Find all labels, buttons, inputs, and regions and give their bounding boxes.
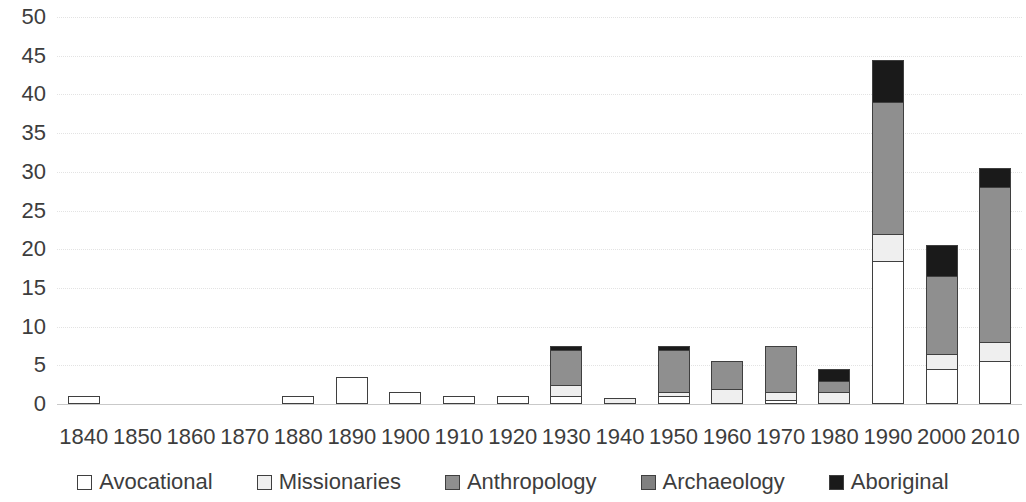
bar-segment-avocational[interactable] — [389, 392, 421, 404]
anthropology-swatch — [445, 475, 460, 490]
legend-label: Missionaries — [279, 471, 401, 493]
legend-label: Avocational — [99, 471, 212, 493]
legend-item[interactable]: Archaeology — [641, 471, 785, 493]
x-axis-tick-label: 1930 — [542, 418, 591, 456]
bar-segment-anthropology[interactable] — [818, 381, 850, 393]
stacked-bar[interactable] — [550, 346, 582, 404]
x-axis-tick-label: 1870 — [220, 418, 269, 456]
stacked-bar[interactable] — [497, 396, 529, 404]
bar-segment-avocational[interactable] — [497, 396, 529, 404]
y-axis-tick-label: 25 — [0, 198, 46, 224]
bar-group — [111, 0, 165, 418]
bar-segment-avocational[interactable] — [68, 396, 100, 404]
stacked-bar[interactable] — [872, 60, 904, 404]
avocational-swatch — [77, 475, 92, 490]
stacked-bar[interactable] — [818, 369, 850, 404]
bar-group — [915, 0, 969, 418]
stacked-bar[interactable] — [765, 346, 797, 404]
stacked-bar[interactable] — [336, 377, 368, 404]
bar-group — [379, 0, 433, 418]
bar-segment-anthropology[interactable] — [658, 350, 690, 393]
bar-segment-anthropology[interactable] — [979, 187, 1011, 342]
x-axis-tick-label: 1850 — [113, 418, 162, 456]
bar-segment-anthropology[interactable] — [926, 276, 958, 353]
x-axis-tick-label: 1970 — [756, 418, 805, 456]
x-axis-tick-label: 1920 — [488, 418, 537, 456]
bar-segment-anthropology[interactable] — [765, 346, 797, 392]
x-axis-tick-label: 1910 — [435, 418, 484, 456]
bar-group — [700, 0, 754, 418]
bar-segment-missionaries[interactable] — [765, 392, 797, 400]
stacked-bar[interactable] — [389, 392, 421, 404]
x-axis-tick-label: 1890 — [327, 418, 376, 456]
y-axis-tick-label: 20 — [0, 236, 46, 262]
stacked-bar[interactable] — [979, 168, 1011, 404]
bar-segment-aboriginal[interactable] — [926, 245, 958, 276]
bar-group — [164, 0, 218, 418]
bar-segment-avocational[interactable] — [658, 396, 690, 404]
stacked-bar[interactable] — [658, 346, 690, 404]
x-axis-tick-label: 2000 — [917, 418, 966, 456]
bar-group — [754, 0, 808, 418]
bar-segment-avocational[interactable] — [550, 396, 582, 404]
x-axis-tick-label: 1900 — [381, 418, 430, 456]
bar-group — [57, 0, 111, 418]
y-axis-tick-label: 35 — [0, 120, 46, 146]
stacked-bar[interactable] — [282, 396, 314, 404]
chart-legend: AvocationalMissionariesAnthropologyArcha… — [0, 462, 1026, 502]
y-axis-tick-label: 10 — [0, 314, 46, 340]
bar-group — [968, 0, 1022, 418]
missionaries-swatch — [257, 475, 272, 490]
x-axis-tick-label: 2010 — [971, 418, 1020, 456]
bar-group — [861, 0, 915, 418]
bar-segment-missionaries[interactable] — [926, 354, 958, 369]
bar-segment-missionaries[interactable] — [872, 234, 904, 261]
bar-segment-avocational[interactable] — [979, 361, 1011, 404]
bar-segment-avocational[interactable] — [926, 369, 958, 404]
stacked-bar[interactable] — [68, 396, 100, 404]
x-axis-tick-label: 1980 — [810, 418, 859, 456]
legend-item[interactable]: Anthropology — [445, 471, 597, 493]
legend-item[interactable]: Missionaries — [257, 471, 401, 493]
bar-segment-aboriginal[interactable] — [818, 369, 850, 381]
x-axis-tick-label: 1840 — [59, 418, 108, 456]
x-axis-tick-label: 1990 — [863, 418, 912, 456]
stacked-bar[interactable] — [926, 245, 958, 404]
bar-segment-missionaries[interactable] — [604, 398, 636, 404]
bar-segment-missionaries[interactable] — [979, 342, 1011, 361]
bar-segment-avocational[interactable] — [282, 396, 314, 404]
x-axis-tick-label: 1950 — [649, 418, 698, 456]
bar-segment-anthropology[interactable] — [711, 361, 743, 388]
bar-segment-aboriginal[interactable] — [979, 168, 1011, 187]
bar-segment-missionaries[interactable] — [818, 392, 850, 404]
stacked-bar[interactable] — [604, 398, 636, 404]
y-axis-tick-label: 5 — [0, 352, 46, 378]
legend-label: Anthropology — [467, 471, 597, 493]
bar-segment-avocational[interactable] — [336, 377, 368, 404]
bar-series-container — [57, 0, 1022, 418]
y-axis-tick-label: 30 — [0, 159, 46, 185]
bar-group — [325, 0, 379, 418]
bar-group — [432, 0, 486, 418]
x-axis-tick-label: 1860 — [167, 418, 216, 456]
stacked-bar[interactable] — [711, 361, 743, 404]
bar-segment-aboriginal[interactable] — [872, 60, 904, 103]
bar-segment-anthropology[interactable] — [872, 102, 904, 234]
aboriginal-swatch — [829, 475, 844, 490]
bar-segment-avocational[interactable] — [443, 396, 475, 404]
bar-group — [540, 0, 594, 418]
bar-segment-missionaries[interactable] — [711, 389, 743, 404]
legend-item[interactable]: Avocational — [77, 471, 212, 493]
bar-segment-missionaries[interactable] — [550, 385, 582, 397]
bar-group — [647, 0, 701, 418]
stacked-bar[interactable] — [443, 396, 475, 404]
x-axis-tick-label: 1940 — [595, 418, 644, 456]
bar-segment-avocational[interactable] — [872, 261, 904, 404]
bar-group — [218, 0, 272, 418]
bar-segment-anthropology[interactable] — [550, 350, 582, 385]
y-axis-tick-label: 45 — [0, 43, 46, 69]
bar-group — [486, 0, 540, 418]
bar-segment-avocational[interactable] — [765, 400, 797, 404]
legend-item[interactable]: Aboriginal — [829, 471, 949, 493]
x-axis-tick-label: 1960 — [703, 418, 752, 456]
